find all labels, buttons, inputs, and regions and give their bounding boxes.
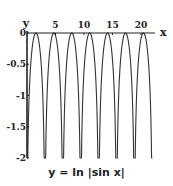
- chart-caption: y = ln |sin x|: [0, 166, 173, 179]
- x-tick-label: 15: [106, 20, 119, 30]
- x-axis-label: x: [160, 26, 167, 39]
- x-tick-label: 20: [135, 20, 148, 30]
- y-axis-label: y: [22, 17, 30, 30]
- plot-area: [27, 33, 152, 158]
- curve-segment: [117, 33, 135, 158]
- curve-segment: [63, 33, 81, 158]
- curve-segment: [45, 33, 63, 158]
- y-tick-label: -2: [16, 153, 26, 163]
- y-tick-label: -1: [16, 91, 26, 101]
- curve-segment: [27, 33, 45, 158]
- y-tick-label: -1.5: [7, 122, 26, 132]
- curve-segment: [81, 33, 99, 158]
- x-tick-label: 10: [78, 20, 91, 30]
- chart-canvas: 51015200-0.5-1-1.5-2 y x: [0, 0, 173, 186]
- y-tick-label: -0.5: [7, 59, 26, 69]
- x-tick-label: 5: [52, 20, 58, 30]
- curve-segment: [134, 33, 152, 158]
- curve-segment: [99, 33, 117, 158]
